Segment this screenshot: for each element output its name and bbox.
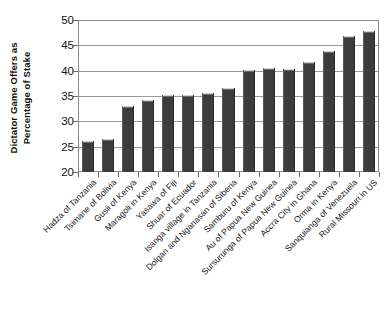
y-axis-tick-label: 50 (46, 15, 74, 26)
y-axis-title: Dictator Game Offers as Percentage of St… (0, 18, 40, 178)
y-axis-tick-mark (72, 20, 78, 21)
bar-top-cap (244, 70, 254, 72)
y-axis-tick-mark (72, 147, 78, 148)
x-axis-labels: Hadza of TanzaniaTsimane of BoliviaGusii… (0, 178, 387, 315)
bar (303, 62, 315, 172)
bar-top-cap (344, 36, 354, 38)
bar (142, 100, 154, 172)
bar (363, 31, 375, 172)
x-axis-tick-mark (239, 172, 240, 177)
bar-top-cap (183, 95, 193, 97)
y-axis-tick-label: 45 (46, 40, 74, 51)
y-axis-tick-label: 30 (46, 116, 74, 127)
bar-top-cap (284, 69, 294, 71)
bar (162, 95, 174, 172)
y-axis-tick-label: 20 (46, 167, 74, 178)
bar (122, 106, 134, 172)
bar (323, 51, 335, 172)
bar-top-cap (83, 141, 93, 143)
bar-top-cap (223, 88, 233, 90)
x-axis-tick-mark (118, 172, 119, 177)
y-axis-tick-label: 35 (46, 91, 74, 102)
bar-top-cap (103, 139, 113, 141)
x-axis-tick-mark (299, 172, 300, 177)
y-axis-title-line-2: Percentage of Stake (20, 42, 33, 153)
bar (243, 70, 255, 172)
y-axis-title-line-1: Dictator Game Offers as (8, 42, 19, 153)
y-axis-tick-mark (72, 71, 78, 72)
bar (283, 69, 295, 172)
x-axis-tick-mark (319, 172, 320, 177)
bar (343, 36, 355, 172)
bar-top-cap (364, 31, 374, 33)
bar-top-cap (143, 100, 153, 102)
bar-series (78, 20, 379, 172)
x-axis-tick-mark (339, 172, 340, 177)
x-axis-tick-mark (379, 172, 380, 177)
x-axis-tick-mark (78, 172, 79, 177)
bar (182, 95, 194, 172)
y-axis-tick-mark (72, 45, 78, 46)
x-axis-tick-mark (218, 172, 219, 177)
bar (202, 93, 214, 172)
bar-top-cap (324, 51, 334, 53)
x-axis-tick-mark (138, 172, 139, 177)
bar-top-cap (264, 68, 274, 70)
bar-top-cap (123, 106, 133, 108)
x-axis-tick-mark (178, 172, 179, 177)
x-axis-tick-mark (98, 172, 99, 177)
x-axis-tick-mark (279, 172, 280, 177)
bar (102, 139, 114, 172)
x-axis-tick-mark (259, 172, 260, 177)
bar (263, 68, 275, 172)
y-axis-tick-mark (72, 96, 78, 97)
dictator-game-bar-chart: Dictator Game Offers as Percentage of St… (0, 0, 387, 315)
y-axis-tick-mark (72, 121, 78, 122)
x-axis-tick-mark (198, 172, 199, 177)
x-axis-tick-mark (158, 172, 159, 177)
bar (222, 88, 234, 172)
x-axis-tick-mark (359, 172, 360, 177)
bar-top-cap (163, 95, 173, 97)
y-axis-tick-label: 40 (46, 65, 74, 76)
y-axis-tick-label: 25 (46, 141, 74, 152)
bar (82, 141, 94, 172)
bar-top-cap (304, 62, 314, 64)
bar-top-cap (203, 93, 213, 95)
